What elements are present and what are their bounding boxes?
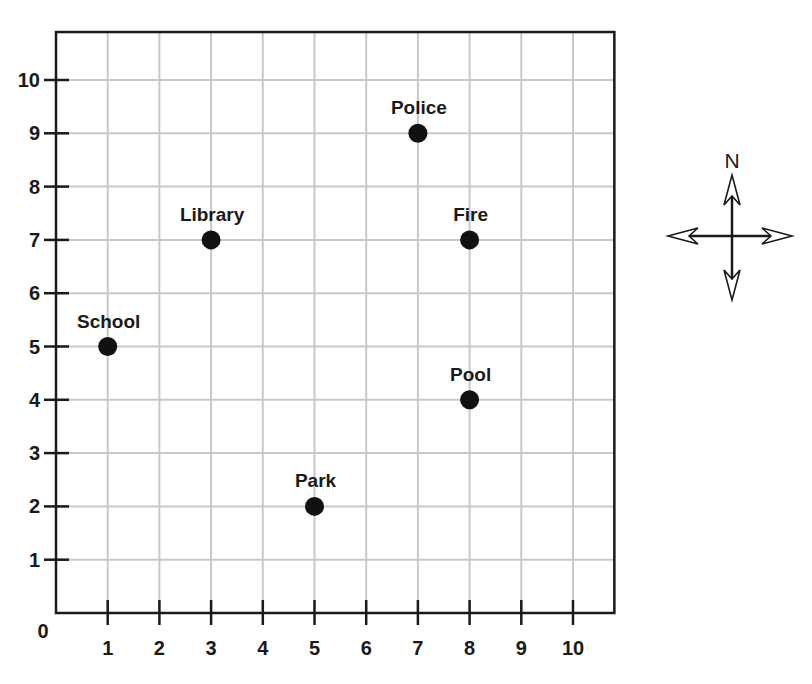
location-marker-icon	[305, 497, 324, 516]
location-label: School	[77, 311, 140, 332]
x-tick-label: 10	[562, 637, 584, 659]
location-label: Pool	[450, 364, 491, 385]
x-tick-label: 8	[464, 637, 475, 659]
x-tick-label: 2	[154, 637, 165, 659]
x-tick-label: 1	[102, 637, 113, 659]
origin-label: 0	[37, 620, 48, 642]
coordinate-map-chart: 12345678910123456789100 PoliceLibraryFir…	[0, 0, 812, 684]
location-park: Park	[295, 470, 337, 516]
x-tick-label: 5	[309, 637, 320, 659]
x-tick-label: 4	[257, 637, 269, 659]
axis-ticks: 12345678910123456789100	[18, 69, 584, 659]
location-marker-icon	[202, 230, 221, 249]
y-tick-label: 6	[29, 282, 40, 304]
location-label: Park	[295, 470, 337, 491]
location-label: Library	[180, 204, 245, 225]
y-tick-label: 1	[29, 549, 40, 571]
location-library: Library	[180, 204, 245, 250]
y-tick-label: 8	[29, 176, 40, 198]
location-label: Fire	[453, 204, 488, 225]
location-marker-icon	[98, 337, 117, 356]
x-tick-label: 3	[206, 637, 217, 659]
location-label: Police	[391, 97, 447, 118]
x-tick-label: 6	[361, 637, 372, 659]
y-tick-label: 10	[18, 69, 40, 91]
x-tick-label: 9	[516, 637, 527, 659]
y-tick-label: 7	[29, 229, 40, 251]
y-tick-label: 4	[29, 389, 41, 411]
y-tick-label: 3	[29, 442, 40, 464]
y-tick-label: 2	[29, 495, 40, 517]
y-tick-label: 9	[29, 122, 40, 144]
location-marker-icon	[408, 124, 427, 143]
y-tick-label: 5	[29, 336, 40, 358]
location-marker-icon	[460, 230, 479, 249]
compass-north-label: N	[724, 149, 739, 172]
compass-rose-icon: N	[668, 149, 792, 300]
location-marker-icon	[460, 390, 479, 409]
x-tick-label: 7	[412, 637, 423, 659]
